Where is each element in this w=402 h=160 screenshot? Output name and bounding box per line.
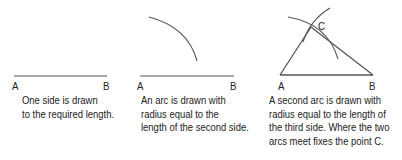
second-side-arc bbox=[149, 17, 197, 61]
step-1-caption: One side is drawn to the required length… bbox=[22, 94, 114, 121]
side-bc-line bbox=[311, 27, 373, 75]
caption-line: to the required length. bbox=[22, 108, 114, 122]
point-c-label: C bbox=[318, 20, 325, 32]
caption-line: An arc is drawn with bbox=[141, 94, 249, 108]
caption-line: One side is drawn bbox=[22, 94, 114, 108]
caption-line: A second arc is drawn with bbox=[269, 94, 389, 108]
point-b-label: B bbox=[103, 80, 109, 92]
panel-step-3: C A B A second arc is drawn with radius … bbox=[268, 0, 402, 160]
base-line-figure bbox=[0, 0, 134, 160]
caption-line: the third side. Where the two bbox=[269, 121, 389, 135]
point-a-label: A bbox=[12, 80, 18, 92]
caption-line: radius equal to the length of bbox=[269, 108, 389, 122]
panel-step-2: A B An arc is drawn with radius equal to… bbox=[134, 0, 268, 160]
step-3-caption: A second arc is drawn with radius equal … bbox=[269, 94, 389, 148]
caption-line: arcs meet fixes the point C. bbox=[269, 135, 389, 149]
step-2-caption: An arc is drawn with radius equal to the… bbox=[141, 94, 249, 135]
point-a-label: A bbox=[137, 80, 143, 92]
point-b-label: B bbox=[230, 80, 236, 92]
panel-step-1: A B One side is drawn to the required le… bbox=[0, 0, 134, 160]
point-b-label: B bbox=[369, 80, 375, 92]
caption-line: radius equal to the bbox=[141, 108, 249, 122]
point-a-label: A bbox=[278, 80, 284, 92]
caption-line: length of the second side. bbox=[141, 121, 249, 135]
arc-figure bbox=[134, 0, 268, 160]
